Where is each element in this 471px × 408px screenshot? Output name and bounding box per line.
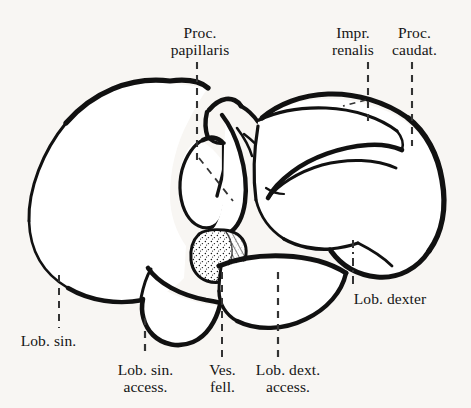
label-lob-sin-access: Lob. sin.access. xyxy=(116,361,175,396)
label-lob-dexter: Lob. dexter xyxy=(352,290,428,307)
label-line: access. xyxy=(254,378,322,395)
label-line: papillaris xyxy=(169,41,231,58)
label-lob-sin: Lob. sin. xyxy=(19,332,78,349)
label-line: Proc. xyxy=(169,24,231,41)
label-line: Lob. dext. xyxy=(254,361,322,378)
label-lob-dext-access: Lob. dext.access. xyxy=(254,361,322,396)
label-line: Impr. xyxy=(330,24,376,41)
label-line: caudat. xyxy=(390,41,439,58)
label-ves-fell: Ves.fell. xyxy=(208,361,237,396)
label-line: Lob. sin. xyxy=(116,361,175,378)
label-impr-renalis: Impr.renalis xyxy=(330,24,376,59)
label-line: Proc. xyxy=(390,24,439,41)
label-line: Ves. xyxy=(208,361,237,378)
anatomical-figure: Proc.papillaris Impr.renalis Proc.caudat… xyxy=(0,0,471,408)
label-line: Lob. dexter xyxy=(352,290,428,307)
label-line: fell. xyxy=(208,378,237,395)
label-proc-caudat: Proc.caudat. xyxy=(390,24,439,59)
label-proc-papillaris: Proc.papillaris xyxy=(169,24,231,59)
label-line: renalis xyxy=(330,41,376,58)
label-line: Lob. sin. xyxy=(19,332,78,349)
label-line: access. xyxy=(116,378,175,395)
